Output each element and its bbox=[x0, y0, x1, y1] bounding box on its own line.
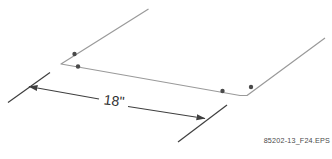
cable-clip-dot bbox=[220, 89, 224, 93]
cable-clip-dot bbox=[76, 64, 80, 68]
dimension-arrow-line bbox=[29, 87, 99, 100]
dimension-extension-line bbox=[178, 105, 227, 142]
figure-filename-caption: 85202-13_F24.EPS bbox=[264, 136, 330, 145]
cable-clip-dot bbox=[249, 85, 253, 89]
dimension-extension-line bbox=[8, 73, 50, 103]
dimension-arrow-line bbox=[128, 107, 205, 119]
figure-canvas: 18" 85202-13_F24.EPS bbox=[0, 0, 332, 159]
dimension-label: 18" bbox=[103, 91, 125, 109]
cable-clip-dot bbox=[72, 52, 76, 56]
cable-wire-line bbox=[61, 9, 325, 96]
